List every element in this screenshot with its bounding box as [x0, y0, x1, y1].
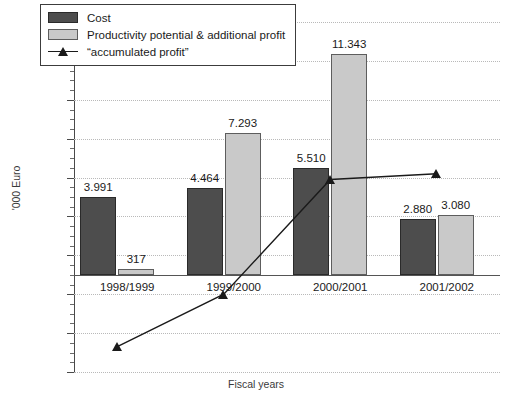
chart-legend: Cost Productivity potential & additional… [40, 4, 296, 66]
y-tick-major [67, 178, 74, 179]
legend-swatch-productivity [48, 29, 78, 40]
legend-item-cost: Cost [48, 9, 285, 26]
legend-item-accumulated-profit: “accumulated profit” [48, 43, 285, 60]
triangle-up-icon [218, 290, 228, 299]
accumulated-profit-line [74, 22, 500, 372]
y-axis-title: '000 Euro [10, 148, 22, 228]
plot-area: 13.00011.0009.0007.0005.0003.0001.000-1.… [74, 22, 500, 372]
y-tick-major [67, 255, 74, 256]
y-tick-major [67, 294, 74, 295]
legend-label-accumulated-profit: “accumulated profit” [87, 46, 189, 58]
y-tick-major [67, 139, 74, 140]
triangle-up-icon [431, 169, 441, 178]
legend-swatch-line [48, 46, 78, 57]
y-tick-major [67, 216, 74, 217]
triangle-up-icon [112, 342, 122, 351]
legend-item-productivity: Productivity potential & additional prof… [48, 26, 285, 43]
x-axis-title: Fiscal years [0, 378, 512, 390]
gridline [74, 372, 500, 373]
y-tick-major [67, 333, 74, 334]
triangle-up-icon [325, 175, 335, 184]
legend-label-productivity: Productivity potential & additional prof… [87, 29, 285, 41]
legend-label-cost: Cost [87, 12, 111, 24]
triangle-up-icon [58, 47, 68, 56]
chart-container: '000 Euro Fiscal years 13.00011.0009.000… [0, 0, 512, 409]
y-tick-major [67, 372, 74, 373]
legend-swatch-cost [48, 12, 78, 23]
y-tick-major [67, 100, 74, 101]
